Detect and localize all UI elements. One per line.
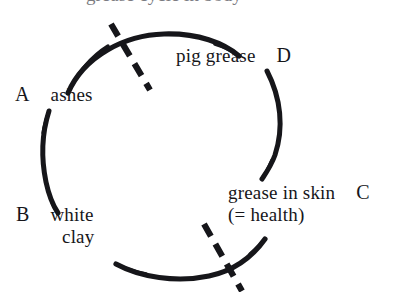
node-text-c-line2: (= health) <box>228 204 370 226</box>
node-key-b: B <box>16 203 30 225</box>
node-label-b: B white clay <box>16 203 94 248</box>
node-text-a: ashes <box>51 84 93 105</box>
node-label-a: A ashes <box>15 83 93 106</box>
node-key-a: A <box>15 83 30 105</box>
node-text-d: pig grease <box>176 45 256 66</box>
node-text-b-line2: clay <box>62 226 94 248</box>
node-label-d: pig grease D <box>176 44 291 67</box>
node-key-c: C <box>356 181 370 203</box>
node-text-b: white <box>50 204 93 225</box>
figure-canvas: grease cycle in body <box>0 0 399 292</box>
node-label-c: grease in skin C (= health) <box>228 181 370 226</box>
dash-bottom-right <box>204 224 242 291</box>
node-key-d: D <box>276 44 291 66</box>
node-text-c: grease in skin <box>228 182 335 203</box>
